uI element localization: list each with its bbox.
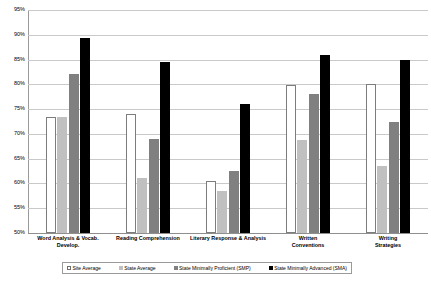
bar-group bbox=[268, 10, 348, 233]
legend-swatch-icon bbox=[119, 266, 123, 270]
bar bbox=[229, 171, 239, 233]
y-axis-tick-label: 95% bbox=[1, 7, 25, 13]
bar bbox=[286, 85, 296, 233]
legend-item[interactable]: State Minimally Proficient (SMP) bbox=[174, 266, 251, 271]
y-axis-tick-labels: 95%90%85%80%75%70%65%60%55%50% bbox=[0, 10, 25, 233]
legend-swatch-icon bbox=[67, 266, 71, 270]
bar bbox=[366, 84, 376, 233]
legend-label: State Minimally Proficient (SMP) bbox=[179, 266, 251, 271]
legend-swatch-icon bbox=[174, 266, 178, 270]
bar-group bbox=[108, 10, 188, 233]
x-axis-category-label: Literary Response & Analysis bbox=[188, 235, 268, 242]
bar bbox=[217, 191, 227, 233]
x-axis-category-label: Word Analysis & Vocab.Develop. bbox=[28, 235, 108, 250]
bar-group bbox=[348, 10, 428, 233]
bar bbox=[80, 38, 90, 233]
x-axis-category-labels: Word Analysis & Vocab.Develop.Reading Co… bbox=[28, 235, 428, 257]
y-axis-tick-label: 90% bbox=[1, 32, 25, 38]
legend-label: State Average bbox=[124, 266, 155, 271]
bar bbox=[320, 55, 330, 233]
bar bbox=[160, 62, 170, 233]
legend-item[interactable]: State Minimally Advanced (SMA) bbox=[269, 266, 347, 271]
bar bbox=[149, 139, 159, 233]
x-axis-category-label: WrittenConventions bbox=[268, 235, 348, 250]
bar bbox=[69, 74, 79, 233]
legend-label: Site Average bbox=[73, 266, 101, 271]
bars-layer bbox=[28, 10, 428, 233]
bar bbox=[297, 140, 307, 233]
y-axis-tick-label: 70% bbox=[1, 131, 25, 137]
y-axis-tick-label: 75% bbox=[1, 106, 25, 112]
chart-legend: Site AverageState AverageState Minimally… bbox=[62, 262, 352, 274]
y-axis-tick-label: 85% bbox=[1, 57, 25, 63]
legend-label: State Minimally Advanced (SMA) bbox=[274, 266, 347, 271]
bar bbox=[137, 178, 147, 234]
bar bbox=[46, 117, 56, 233]
bar-group bbox=[28, 10, 108, 233]
gridline bbox=[28, 233, 428, 234]
y-axis-tick-label: 60% bbox=[1, 180, 25, 186]
legend-item[interactable]: Site Average bbox=[67, 266, 101, 271]
y-axis-tick-label: 55% bbox=[1, 205, 25, 211]
legend-item[interactable]: State Average bbox=[119, 266, 156, 271]
bar bbox=[206, 181, 216, 233]
bar-chart: 95%90%85%80%75%70%65%60%55%50% Word Anal… bbox=[0, 0, 431, 283]
y-axis-tick-label: 50% bbox=[1, 230, 25, 236]
bar bbox=[309, 94, 319, 233]
bar bbox=[400, 60, 410, 233]
x-axis-category-label: WritingStrategies bbox=[348, 235, 428, 250]
bar bbox=[57, 117, 67, 233]
bar bbox=[377, 166, 387, 233]
y-axis-tick-label: 65% bbox=[1, 156, 25, 162]
bar bbox=[389, 122, 399, 234]
bar-group bbox=[188, 10, 268, 233]
legend-swatch-icon bbox=[269, 266, 273, 270]
bar bbox=[126, 114, 136, 233]
x-axis-category-label: Reading Comprehension bbox=[108, 235, 188, 242]
bar bbox=[240, 104, 250, 233]
y-axis-tick-label: 80% bbox=[1, 81, 25, 87]
